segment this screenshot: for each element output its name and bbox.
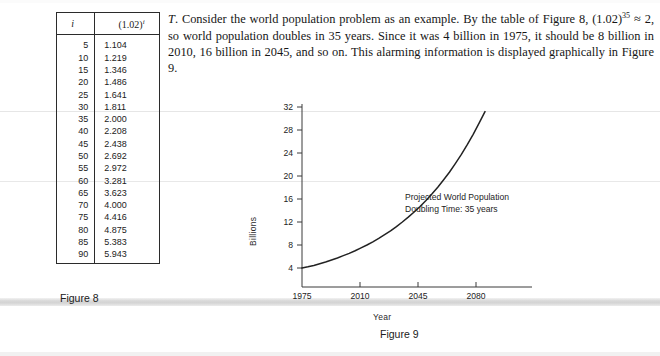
cell-value: 3.623 <box>95 187 160 199</box>
table-row: 51.104 <box>57 35 160 52</box>
chart-y-tick-label: 24 <box>283 148 293 158</box>
chart-data-curve <box>302 112 485 268</box>
cell-i: 90 <box>57 248 95 263</box>
column-header-i: i <box>57 13 95 35</box>
table-row: 754.416 <box>57 211 160 223</box>
cell-i: 30 <box>57 101 95 113</box>
paragraph-exponent: 35 <box>622 11 630 20</box>
paragraph-lead-italic: T <box>168 12 175 26</box>
table-header-row: i (1.02)i <box>57 13 160 35</box>
table-row: 653.623 <box>57 187 160 199</box>
cell-value: 1.104 <box>95 35 160 52</box>
figure-8-caption: Figure 8 <box>60 292 99 304</box>
figure-9-chart: 481216202428321975201020452080 Billions … <box>250 96 550 311</box>
cell-value: 1.219 <box>95 52 160 64</box>
cell-i: 45 <box>57 138 95 150</box>
table-row: 855.383 <box>57 236 160 248</box>
cell-value: 2.438 <box>95 138 160 150</box>
table-row: 502.692 <box>57 150 160 162</box>
cell-i: 60 <box>57 175 95 187</box>
cell-i: 15 <box>57 64 95 76</box>
chart-y-tick-label: 12 <box>283 217 293 227</box>
scan-artifact-band-top <box>0 0 660 3</box>
cell-value: 1.811 <box>95 101 160 113</box>
cell-i: 65 <box>57 187 95 199</box>
cell-value: 1.486 <box>95 76 160 88</box>
power-table: i (1.02)i 51.104101.219151.346201.486251… <box>56 12 160 264</box>
cell-i: 25 <box>57 89 95 101</box>
chart-annotation-line-2: Doubling Time: 35 years <box>405 204 509 216</box>
cell-value: 2.208 <box>95 125 160 137</box>
cell-i: 85 <box>57 236 95 248</box>
chart-y-tick-label: 16 <box>283 194 293 204</box>
table-head: i (1.02)i <box>57 13 160 35</box>
cell-value: 4.000 <box>95 199 160 211</box>
table-row: 151.346 <box>57 64 160 76</box>
cell-value: 5.383 <box>95 236 160 248</box>
chart-x-axis-label: Year <box>373 312 391 322</box>
column-header-power: (1.02)i <box>95 13 160 35</box>
chart-y-axis-label: Billions <box>248 217 258 246</box>
cell-i: 5 <box>57 35 95 52</box>
chart-x-tick-label: 2045 <box>408 291 427 301</box>
chart-y-tick-label: 8 <box>288 240 293 250</box>
table-row: 704.000 <box>57 199 160 211</box>
cell-value: 3.281 <box>95 175 160 187</box>
scan-artifact-band-bottom <box>0 352 660 356</box>
cell-value: 2.972 <box>95 162 160 174</box>
cell-i: 20 <box>57 76 95 88</box>
table-row: 804.875 <box>57 224 160 236</box>
cell-i: 70 <box>57 199 95 211</box>
chart-x-tick-label: 2010 <box>350 291 369 301</box>
table-row: 905.943 <box>57 248 160 263</box>
paragraph-segment-1: . Consider the world population problem … <box>175 12 622 26</box>
chart-y-tick-label: 28 <box>283 125 293 135</box>
table-figure-8: i (1.02)i 51.104101.219151.346201.486251… <box>56 12 160 264</box>
cell-value: 4.875 <box>95 224 160 236</box>
chart-x-tick-label: 1975 <box>292 291 311 301</box>
chart-annotation-line-1: Projected World Population <box>405 192 509 204</box>
cell-i: 80 <box>57 224 95 236</box>
table-row: 603.281 <box>57 175 160 187</box>
chart-y-tick-label: 32 <box>283 102 293 112</box>
table-row: 301.811 <box>57 101 160 113</box>
figure-9-caption: Figure 9 <box>380 328 419 340</box>
table-row: 251.641 <box>57 89 160 101</box>
cell-value: 2.692 <box>95 150 160 162</box>
cell-i: 75 <box>57 211 95 223</box>
cell-value: 4.416 <box>95 211 160 223</box>
cell-i: 55 <box>57 162 95 174</box>
chart-y-tick-label: 4 <box>288 263 293 273</box>
cell-i: 35 <box>57 113 95 125</box>
cell-i: 10 <box>57 52 95 64</box>
cell-i: 50 <box>57 150 95 162</box>
chart-x-tick-label: 2080 <box>466 291 485 301</box>
table-row: 452.438 <box>57 138 160 150</box>
cell-value: 1.641 <box>95 89 160 101</box>
table-row: 552.972 <box>57 162 160 174</box>
cell-value: 1.346 <box>95 64 160 76</box>
cell-value: 2.000 <box>95 113 160 125</box>
cell-i: 40 <box>57 125 95 137</box>
table-row: 201.486 <box>57 76 160 88</box>
table-row: 352.000 <box>57 113 160 125</box>
table-row: 402.208 <box>57 125 160 137</box>
chart-y-tick-label: 20 <box>283 171 293 181</box>
column-header-exponent: i <box>143 18 145 26</box>
cell-value: 5.943 <box>95 248 160 263</box>
body-paragraph: T. Consider the world population problem… <box>168 8 654 77</box>
table-body: 51.104101.219151.346201.486251.641301.81… <box>57 35 160 263</box>
chart-annotation: Projected World Population Doubling Time… <box>405 192 509 215</box>
table-row: 101.219 <box>57 52 160 64</box>
